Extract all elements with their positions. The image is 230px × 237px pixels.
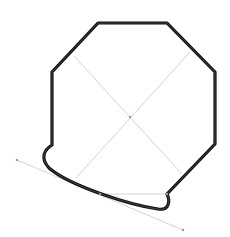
chord-right-point[interactable] [166,193,168,195]
center-point[interactable] [129,116,131,118]
tangent-start-point[interactable] [16,159,18,161]
control-points [16,116,184,231]
tangent-end-point[interactable] [182,229,184,231]
chord-left-point[interactable] [99,193,101,195]
guide-lines [17,52,190,230]
diagonal-guide-2 [76,52,190,178]
diagram-canvas [0,0,230,237]
diagonal-guide-1 [74,56,182,174]
